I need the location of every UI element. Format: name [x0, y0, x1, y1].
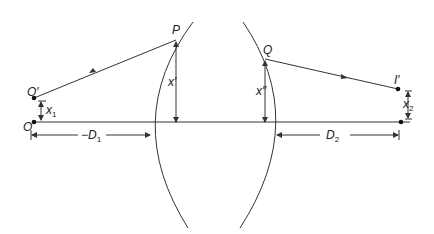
label-O-prime: O′ [27, 85, 39, 99]
label-x-prime: x′ [167, 75, 177, 89]
label-O: O [23, 120, 32, 134]
label-D1: −D1 [81, 128, 102, 144]
ray-arrow-1 [89, 68, 96, 73]
point-O [32, 120, 37, 125]
ray-incident [34, 40, 176, 98]
label-P: P [172, 23, 180, 37]
left-surface [155, 22, 193, 228]
label-D2: D2 [326, 128, 340, 144]
point-I [399, 120, 404, 125]
label-x1: x1 [45, 103, 57, 119]
point-I-prime [396, 87, 401, 92]
label-Q: Q [263, 43, 272, 57]
ray-arrow-2 [341, 74, 348, 79]
ray-emergent [265, 59, 398, 89]
label-x2: x2 [402, 97, 414, 113]
label-x-double-prime: x″ [255, 84, 267, 98]
optics-diagram: P Q O′ O I′ x′ x″ x1 x2 −D1 D2 [0, 0, 434, 234]
label-I-prime: I′ [394, 73, 400, 87]
